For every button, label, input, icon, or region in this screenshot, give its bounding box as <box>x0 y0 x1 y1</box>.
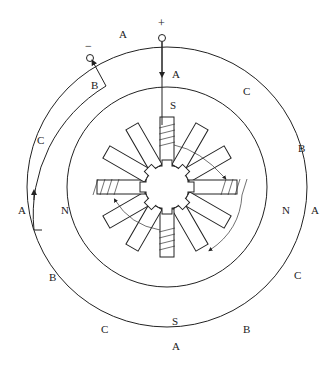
label-right: A <box>311 204 319 216</box>
negative-terminal <box>87 55 94 62</box>
negative-sign: − <box>85 39 92 53</box>
label-left-upper: C <box>37 134 44 146</box>
pole-label-bottom: S <box>172 315 178 327</box>
label-outside-top: A <box>119 28 127 40</box>
stepper-motor-diagram: + − A A C B A C B A C B A C B S S N N <box>0 0 334 372</box>
label-left-lower: B <box>49 271 56 283</box>
positive-sign: + <box>158 16 165 30</box>
label-left: A <box>18 204 26 216</box>
pole-label-left: N <box>61 204 69 216</box>
label-bottom-left: C <box>101 323 108 335</box>
label-top: A <box>172 68 180 80</box>
label-right-upper: B <box>298 142 305 154</box>
rotor <box>140 160 194 214</box>
label-bottom: A <box>172 340 180 352</box>
label-top-left: B <box>91 79 98 91</box>
label-top-right: C <box>243 85 250 97</box>
pole-label-top: S <box>170 99 176 111</box>
positive-terminal <box>159 35 166 42</box>
pole-label-right: N <box>282 204 290 216</box>
label-bottom-right: B <box>243 323 250 335</box>
label-right-lower: C <box>294 269 301 281</box>
